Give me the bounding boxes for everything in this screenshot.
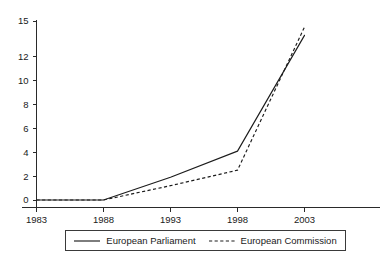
chart-figure: 02468101215 19831988199319982003 Europea… xyxy=(0,0,386,265)
y-tick-label: 2 xyxy=(23,171,28,182)
x-axis-tick-labels: 19831988199319982003 xyxy=(26,214,315,225)
y-tick-label: 0 xyxy=(23,194,28,205)
y-tick-label: 6 xyxy=(23,123,28,134)
x-tick-label: 1983 xyxy=(26,214,47,225)
series-line-european-parliament xyxy=(37,35,305,200)
x-tick-label: 1998 xyxy=(227,214,248,225)
legend-swatch-dashed-line xyxy=(209,237,235,245)
legend-item-european-parliament: European Parliament xyxy=(74,235,195,246)
y-tick-label: 4 xyxy=(23,147,28,158)
y-tick-label: 8 xyxy=(23,99,28,110)
x-tick-label: 1993 xyxy=(160,214,181,225)
data-series-group xyxy=(37,27,305,200)
legend-label-european-parliament: European Parliament xyxy=(106,235,195,246)
series-line-european-commission xyxy=(37,27,305,200)
legend-swatch-solid-line xyxy=(74,237,100,245)
line-chart-plot: 02468101215 19831988199319982003 xyxy=(0,0,386,265)
y-axis-ticks xyxy=(33,21,37,200)
y-tick-label: 10 xyxy=(18,75,29,86)
legend-item-european-commission: European Commission xyxy=(209,235,337,246)
y-tick-label: 15 xyxy=(18,15,29,26)
legend-label-european-commission: European Commission xyxy=(241,235,337,246)
x-tick-label: 2003 xyxy=(294,214,315,225)
chart-legend: European Parliament European Commission xyxy=(65,230,346,251)
y-tick-label: 12 xyxy=(18,51,29,62)
x-axis-ticks xyxy=(37,208,305,212)
x-tick-label: 1988 xyxy=(93,214,114,225)
y-axis-tick-labels: 02468101215 xyxy=(18,15,29,205)
